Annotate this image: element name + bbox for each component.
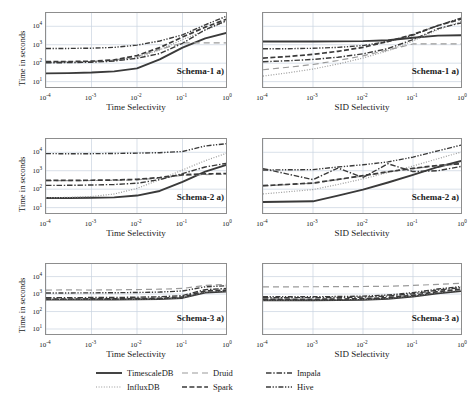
plot-canvas-schema3-sid [263, 264, 462, 335]
legend-item-druid[interactable]: Druid [182, 368, 266, 378]
x-tick-label: 100 [449, 339, 475, 349]
plot-area-schema1-time [45, 12, 227, 88]
plot-canvas-schema2-time [46, 139, 227, 214]
legend-label: Hive [297, 382, 314, 392]
plot-area-schema2-time [45, 138, 227, 214]
x-tick-label: 10-2 [123, 339, 149, 349]
x-tick-label: 100 [214, 339, 240, 349]
legend-label: InfluxDB [127, 382, 160, 392]
x-tick-label: 10-1 [169, 218, 195, 228]
x-tick-label: 10-3 [299, 218, 325, 228]
chart-legend: TimescaleDBDruidImpalaInfluxDBSparkHive [96, 366, 396, 396]
panel-title-schema1-sid: Schema-1 a) [389, 66, 459, 76]
x-tick-label: 10-1 [399, 92, 425, 102]
x-tick-label: 100 [214, 92, 240, 102]
legend-item-hive[interactable]: Hive [266, 382, 356, 392]
series-line-druid [46, 284, 227, 290]
x-axis-label-schema3-sid: SID Selectivity [262, 349, 462, 359]
y-tick-label: 104 [23, 146, 42, 156]
y-tick-label: 104 [23, 20, 42, 30]
legend-item-influxdb[interactable]: InfluxDB [96, 382, 182, 392]
x-tick-label: 10-2 [349, 218, 375, 228]
grid-lines [263, 13, 462, 88]
legend-swatch-druid [182, 368, 208, 378]
x-tick-label: 10-4 [249, 218, 275, 228]
legend-label: Impala [297, 368, 321, 378]
panel-title-schema1-time: Schema-1 a) [154, 66, 224, 76]
legend-item-impala[interactable]: Impala [266, 368, 356, 378]
plot-area-schema1-sid [262, 12, 462, 88]
legend-label: Druid [213, 368, 233, 378]
x-axis-label-schema2-sid: SID Selectivity [262, 228, 462, 238]
panel-title-schema3-sid: Schema-3 a) [389, 313, 459, 323]
legend-swatch-spark [182, 382, 208, 392]
plot-canvas-schema1-sid [263, 13, 462, 88]
grid-lines [46, 139, 227, 214]
legend-row: InfluxDBSparkHive [96, 380, 396, 394]
plot-canvas-schema2-sid [263, 139, 462, 214]
x-axis-label-schema3-time: Time Selectivity [45, 349, 227, 359]
panel-title-schema3-time: Schema-3 a) [154, 313, 224, 323]
plot-canvas-schema3-time [46, 264, 227, 335]
legend-item-timescaledb[interactable]: TimescaleDB [96, 368, 182, 378]
y-axis-label-schema2-time: Time in seconds [17, 157, 27, 212]
x-tick-label: 10-2 [123, 92, 149, 102]
series-line-influxdb [263, 152, 462, 194]
panel-title-schema2-sid: Schema-2 a) [389, 192, 459, 202]
legend-swatch-influxdb [96, 382, 122, 392]
x-tick-label: 10-1 [399, 218, 425, 228]
series-line-timescaledb [263, 35, 462, 41]
x-tick-label: 10-3 [299, 339, 325, 349]
x-tick-label: 10-3 [78, 218, 104, 228]
x-tick-label: 10-3 [78, 92, 104, 102]
y-axis-label-schema3-time: Time in seconds [17, 278, 27, 333]
plot-area-schema2-sid [262, 138, 462, 214]
legend-swatch-impala [266, 368, 292, 378]
x-tick-label: 10-2 [123, 218, 149, 228]
legend-swatch-timescaledb [96, 368, 122, 378]
x-tick-label: 10-1 [169, 339, 195, 349]
x-tick-label: 10-2 [349, 339, 375, 349]
series-line-druid [263, 164, 462, 186]
grid-lines [46, 13, 227, 88]
x-tick-label: 10-4 [32, 339, 58, 349]
x-axis-label-schema2-time: Time Selectivity [45, 228, 227, 238]
x-axis-label-schema1-sid: SID Selectivity [262, 102, 462, 112]
x-tick-label: 10-1 [399, 339, 425, 349]
x-tick-label: 100 [449, 218, 475, 228]
series-line-druid [263, 283, 462, 287]
plot-area-schema3-time [45, 263, 227, 335]
x-tick-label: 10-4 [32, 218, 58, 228]
legend-item-spark[interactable]: Spark [182, 382, 266, 392]
x-tick-label: 10-4 [249, 339, 275, 349]
x-tick-label: 10-1 [169, 92, 195, 102]
x-tick-label: 10-3 [78, 339, 104, 349]
legend-label: Spark [213, 382, 233, 392]
plot-canvas-schema1-time [46, 13, 227, 88]
series-line-spark [263, 164, 462, 186]
x-tick-label: 10-2 [349, 92, 375, 102]
x-tick-label: 100 [214, 218, 240, 228]
legend-swatch-hive [266, 382, 292, 392]
legend-label: TimescaleDB [127, 368, 173, 378]
legend-row: TimescaleDBDruidImpala [96, 366, 396, 380]
x-tick-label: 10-3 [299, 92, 325, 102]
x-tick-label: 10-4 [249, 92, 275, 102]
x-tick-label: 10-4 [32, 92, 58, 102]
y-axis-label-schema1-time: Time in seconds [17, 31, 27, 86]
x-tick-label: 100 [449, 92, 475, 102]
panel-title-schema2-time: Schema-2 a) [154, 192, 224, 202]
x-axis-label-schema1-time: Time Selectivity [45, 102, 227, 112]
figure-root: Schema-1 a)10-410-310-210-1100Time Selec… [0, 0, 476, 404]
plot-area-schema3-sid [262, 263, 462, 335]
series-line-spark [263, 19, 462, 58]
